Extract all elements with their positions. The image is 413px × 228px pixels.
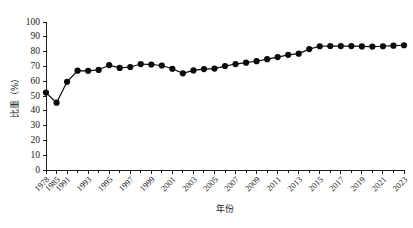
x-tick-label: 2017: [327, 174, 346, 193]
data-point: [348, 43, 354, 49]
data-point: [43, 90, 49, 96]
x-tick-label: 2007: [222, 174, 241, 193]
data-point: [74, 68, 80, 74]
data-point: [359, 43, 365, 49]
data-point: [127, 64, 133, 70]
data-point: [380, 43, 386, 49]
data-point: [53, 100, 59, 106]
data-point: [222, 63, 228, 69]
data-point: [327, 43, 333, 49]
x-tick-label: 1997: [117, 174, 136, 193]
x-tick-label: 2021: [369, 174, 388, 193]
data-point: [338, 43, 344, 49]
x-tick-label: 2005: [201, 174, 220, 193]
data-point: [169, 66, 175, 72]
data-point: [106, 62, 112, 68]
data-point: [275, 54, 281, 60]
y-axis-title: 比重（%）: [9, 74, 20, 119]
y-tick-label: 30: [31, 120, 41, 130]
data-point: [243, 60, 249, 66]
data-point: [369, 43, 375, 49]
data-point: [190, 67, 196, 73]
y-tick-label: 0: [35, 165, 40, 175]
data-point: [201, 66, 207, 72]
line-chart: 0102030405060708090100197819851991199319…: [0, 0, 413, 228]
x-tick-label: 1999: [138, 174, 157, 193]
x-tick-label: 2011: [264, 174, 283, 193]
data-point: [390, 43, 396, 49]
y-tick-label: 90: [31, 31, 41, 41]
data-point: [317, 43, 323, 49]
y-tick-label: 20: [31, 135, 41, 145]
data-point: [285, 52, 291, 58]
x-tick-label: 1995: [95, 174, 114, 193]
y-tick-label: 100: [26, 17, 41, 27]
x-tick-label: 2023: [390, 174, 409, 193]
data-point: [159, 62, 165, 68]
y-tick-label: 10: [31, 150, 41, 160]
data-point: [96, 67, 102, 73]
x-tick-label: 2003: [180, 174, 199, 193]
data-point: [232, 61, 238, 67]
data-point: [253, 58, 259, 64]
y-tick-label: 60: [31, 76, 41, 86]
data-point: [64, 79, 70, 85]
x-tick-label: 2009: [243, 174, 262, 193]
data-point: [264, 56, 270, 62]
data-point: [148, 61, 154, 67]
x-tick-label: 2001: [159, 174, 178, 193]
chart-figure: 0102030405060708090100197819851991199319…: [0, 0, 413, 228]
data-point: [296, 51, 302, 57]
data-point: [180, 70, 186, 76]
data-point: [117, 65, 123, 71]
data-point: [211, 66, 217, 72]
x-tick-label: 2019: [348, 174, 367, 193]
series-line: [46, 45, 404, 102]
data-point: [85, 68, 91, 74]
y-tick-label: 80: [31, 46, 41, 56]
x-tick-label: 1993: [74, 174, 93, 193]
data-point: [138, 61, 144, 67]
y-tick-label: 40: [31, 105, 41, 115]
y-tick-label: 70: [31, 61, 41, 71]
y-tick-label: 50: [31, 91, 41, 101]
data-point: [401, 42, 407, 48]
data-point: [306, 46, 312, 52]
x-tick-label: 2013: [285, 174, 304, 193]
x-axis-title: 年份: [216, 203, 234, 214]
x-tick-label: 2015: [306, 174, 325, 193]
